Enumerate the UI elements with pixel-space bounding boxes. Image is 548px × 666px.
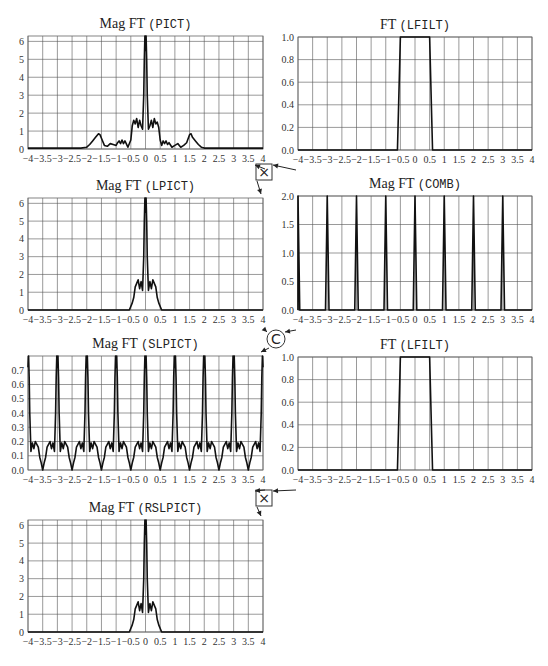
x-tick-label: 2 — [471, 474, 476, 485]
x-tick-label: −1 — [111, 474, 122, 485]
x-tick-label: −3 — [52, 636, 63, 647]
y-tick-label: 5 — [19, 538, 24, 549]
x-tick-label: −3.5 — [34, 474, 52, 485]
y-tick-label: 0.2 — [12, 436, 25, 447]
x-tick-label: 3.5 — [511, 474, 524, 485]
x-tick-label: 4 — [261, 314, 266, 325]
x-tick-label: −2.5 — [333, 154, 351, 165]
y-tick-label: 0.6 — [282, 77, 295, 88]
x-tick-label: −0.5 — [122, 474, 140, 485]
x-tick-label: −1.5 — [362, 314, 380, 325]
x-tick-label: −3 — [322, 314, 333, 325]
y-tick-label: 0.8 — [282, 374, 295, 385]
y-tick-label: 0.0 — [12, 465, 25, 476]
x-tick-label: −2 — [351, 154, 362, 165]
x-tick-label: 2.5 — [213, 636, 226, 647]
x-tick-label: 0 — [143, 153, 148, 164]
y-tick-label: 6 — [19, 198, 24, 209]
x-tick-label: 0 — [413, 314, 418, 325]
x-tick-label: 0 — [143, 474, 148, 485]
y-tick-label: 2 — [19, 108, 24, 119]
y-tick-label: 0.0 — [282, 305, 295, 316]
x-tick-label: 4 — [261, 153, 266, 164]
x-tick-label: 0 — [143, 314, 148, 325]
x-tick-label: −0.5 — [391, 154, 409, 165]
x-tick-label: 2 — [202, 314, 207, 325]
x-tick-label: −4 — [23, 314, 34, 325]
y-tick-label: 4 — [19, 72, 24, 83]
x-tick-label: −3.5 — [34, 636, 52, 647]
y-tick-label: 2.0 — [282, 191, 295, 202]
x-tick-label: −2 — [351, 314, 362, 325]
x-tick-label: 4 — [261, 474, 266, 485]
y-tick-label: 2 — [19, 269, 24, 280]
x-tick-label: 1.5 — [183, 314, 196, 325]
x-tick-label: 3 — [500, 474, 505, 485]
x-tick-label: 1 — [442, 474, 447, 485]
chart-plot-comb: Mag FT (COMB)−4−3.5−3−2.5−2−1.5−1−0.500.… — [282, 176, 535, 325]
x-tick-label: 4 — [530, 314, 535, 325]
x-tick-label: 1 — [442, 154, 447, 165]
x-tick-label: −2.5 — [63, 314, 81, 325]
x-tick-label: −1 — [111, 636, 122, 647]
x-tick-label: −2.5 — [63, 153, 81, 164]
chart-title: Mag FT (LPICT) — [96, 178, 195, 194]
y-tick-label: 1.0 — [282, 352, 295, 363]
y-tick-label: 0.3 — [12, 422, 25, 433]
y-tick-label: 0.1 — [12, 450, 25, 461]
x-tick-label: 3.5 — [242, 314, 255, 325]
x-tick-label: 2.5 — [213, 474, 226, 485]
y-axis-ticks: 0.00.51.01.52.0 — [282, 191, 295, 316]
chart-title: Mag FT (RSLPICT) — [89, 500, 203, 516]
y-tick-label: 0 — [19, 627, 24, 638]
x-tick-label: −3.5 — [34, 153, 52, 164]
x-tick-label: −3 — [322, 474, 333, 485]
y-tick-label: 5 — [19, 216, 24, 227]
x-tick-label: 3 — [231, 474, 236, 485]
y-axis-ticks: 0123456 — [19, 36, 24, 155]
x-tick-label: 1.5 — [453, 314, 466, 325]
x-tick-label: 0 — [413, 154, 418, 165]
x-tick-label: 4 — [261, 636, 266, 647]
x-tick-label: −1.5 — [92, 474, 110, 485]
x-tick-label: −1 — [111, 153, 122, 164]
x-tick-label: 2.5 — [482, 474, 495, 485]
x-tick-label: −3 — [52, 153, 63, 164]
x-tick-label: 3.5 — [242, 474, 255, 485]
y-tick-label: 3 — [19, 251, 24, 262]
y-tick-label: 0.4 — [282, 419, 295, 430]
x-tick-label: −0.5 — [122, 314, 140, 325]
y-axis-ticks: 0123456 — [19, 520, 24, 638]
x-tick-label: 1.5 — [183, 153, 196, 164]
y-tick-label: 3 — [19, 90, 24, 101]
chart-title: Mag FT (PICT) — [100, 16, 192, 32]
chart-plot-lfilt-1: FT (LFILT)−4−3.5−3−2.5−2−1.5−1−0.500.511… — [282, 17, 535, 165]
grid-lines — [298, 37, 532, 150]
x-tick-label: 3 — [231, 314, 236, 325]
y-tick-label: 0.2 — [282, 122, 295, 133]
y-tick-label: 0.2 — [282, 442, 295, 453]
y-tick-label: 0.8 — [282, 54, 295, 65]
chart-plot-lfilt-2: FT (LFILT)−4−3.5−3−2.5−2−1.5−1−0.500.511… — [282, 337, 535, 485]
x-tick-label: 3 — [500, 314, 505, 325]
x-tick-label: 0.5 — [154, 474, 167, 485]
y-tick-label: 4 — [19, 233, 24, 244]
convolve-operator: C — [261, 327, 296, 352]
x-tick-label: −3.5 — [304, 314, 322, 325]
chart-plot-lpict: Mag FT (LPICT)−4−3.5−3−2.5−2−1.5−1−0.500… — [19, 178, 266, 325]
x-tick-label: 1 — [172, 153, 177, 164]
x-axis-ticks: −4−3.5−3−2.5−2−1.5−1−0.500.511.522.533.5… — [293, 154, 535, 165]
y-axis-ticks: 0123456 — [19, 198, 24, 316]
operators-layer: ×C× — [255, 164, 296, 516]
x-tick-label: −1 — [380, 474, 391, 485]
x-tick-label: 2.5 — [213, 153, 226, 164]
x-tick-label: 3.5 — [242, 636, 255, 647]
y-tick-label: 1 — [19, 287, 24, 298]
x-tick-label: −1.5 — [92, 153, 110, 164]
multiply-icon: × — [258, 164, 270, 180]
x-tick-label: −0.5 — [391, 474, 409, 485]
x-tick-label: 2 — [471, 314, 476, 325]
y-tick-label: 0 — [19, 305, 24, 316]
y-axis-ticks: 0.00.20.40.60.81.0 — [282, 32, 295, 156]
x-tick-label: −1 — [380, 314, 391, 325]
